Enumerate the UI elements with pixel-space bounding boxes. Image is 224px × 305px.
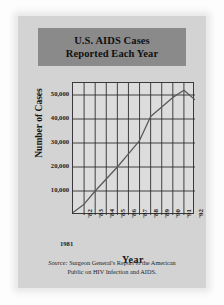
source-line-2: Public on HIV Infection and AIDS. (67, 268, 156, 275)
plot-area (72, 82, 194, 214)
chart-title-line-2: Reported Each Year (66, 47, 158, 60)
source-label: Source: (48, 259, 67, 266)
source-note: Source: Surgeon General's Report to the … (26, 258, 198, 276)
y-tick-label: 20,000 (23, 162, 69, 169)
x-tick-label: '89 (163, 209, 171, 218)
figure-container: U.S. AIDS Cases Reported Each Year Numbe… (0, 0, 224, 305)
x-tick-label: '88 (152, 209, 160, 218)
x-tick-label: '87 (141, 209, 149, 218)
x-tick-label: '82 (86, 209, 94, 218)
y-tick-label: 30,000 (23, 138, 69, 145)
x-tick-label: '86 (130, 209, 138, 218)
x-tick-label: '91 (185, 209, 193, 218)
y-tick-label: 50,000 (23, 90, 69, 97)
x-tick-label: '90 (174, 209, 182, 218)
source-line-1: Surgeon General's Report to the American (69, 259, 175, 266)
x-tick-label: '85 (119, 209, 127, 218)
x-tick-label: '92 (197, 209, 205, 218)
chart-title-banner: U.S. AIDS Cases Reported Each Year (38, 28, 186, 66)
x-tick-label: '84 (108, 209, 116, 218)
y-tick-label: 40,000 (23, 114, 69, 121)
x-tick-label: '83 (97, 209, 105, 218)
data-line-series (73, 83, 195, 215)
y-tick-label: 10,000 (23, 186, 69, 193)
origin-year-label: 1981 (60, 240, 73, 247)
plot-wrapper: Number of Cases 10,00020,00030,00040,000… (72, 82, 194, 214)
chart-title-line-1: U.S. AIDS Cases (74, 34, 150, 47)
